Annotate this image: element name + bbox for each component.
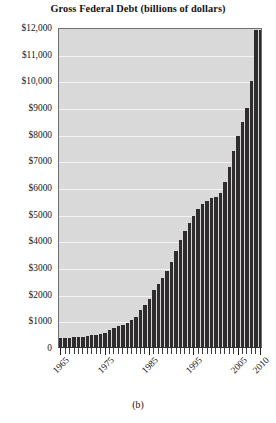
x-axis-tick-label: 1965 [51,355,71,375]
x-axis-tick [96,348,97,354]
x-axis-tick-label: 1995 [184,355,204,375]
x-axis-tick [158,348,159,354]
x-axis-tick-label: 1975 [95,355,115,375]
x-axis-tick [136,348,137,354]
x-axis: 196519751985199520052010 [0,355,276,395]
x-axis-tick [242,348,243,354]
y-axis-tick-label: $9000 [29,103,52,113]
x-axis-tick [238,348,239,355]
x-axis-tick [82,348,83,354]
x-axis-tick [140,348,141,354]
x-axis-tick-label: 2005 [228,355,248,375]
y-axis-tick-label: $3000 [29,263,52,273]
x-axis-tick [69,348,70,354]
y-axis-tick-label: $2000 [29,290,52,300]
x-axis-tick [171,348,172,354]
x-axis-tick [60,348,61,355]
x-axis-tick [78,348,79,354]
chart-title: Gross Federal Debt (billions of dollars) [0,3,276,14]
y-axis-tick-label: $7000 [29,156,52,166]
x-axis-tick [215,348,216,354]
y-axis: $12,000$11,000$10,000$9000$8000$7000$600… [0,28,55,348]
x-axis-tick [162,348,163,354]
x-axis-tick [144,348,145,354]
x-axis-tick [202,348,203,354]
y-axis-tick-label: $10,000 [22,76,52,86]
x-axis-tick [100,348,101,354]
x-axis-tick [207,348,208,354]
x-axis-ticks [58,348,262,355]
x-axis-tick [74,348,75,354]
x-axis-tick [65,348,66,354]
x-axis-tick [176,348,177,354]
y-axis-tick-label: $11,000 [22,50,52,60]
bar [259,30,262,347]
x-axis-tick [127,348,128,354]
y-axis-tick-label: $8000 [29,130,52,140]
x-axis-tick [224,348,225,354]
x-axis-tick [180,348,181,354]
x-axis-tick [167,348,168,354]
y-axis-tick-label: $4000 [29,236,52,246]
x-axis-tick [229,348,230,354]
plot-area [58,28,262,348]
x-axis-tick [131,348,132,354]
x-axis-tick-label: 2010 [251,355,271,375]
bar-series [59,29,261,347]
y-axis-tick-label: $5000 [29,210,52,220]
x-axis-tick [251,348,252,354]
x-axis-tick [118,348,119,354]
y-axis-tick-label: $12,000 [22,23,52,33]
x-axis-tick [87,348,88,354]
x-axis-tick [149,348,150,355]
y-axis-tick-label: $6000 [29,183,52,193]
x-axis-tick [255,348,256,354]
x-axis-tick [109,348,110,354]
x-axis-tick [91,348,92,354]
x-axis-tick [189,348,190,354]
x-axis-tick [233,348,234,354]
y-axis-tick-label: 0 [47,343,52,353]
x-axis-tick [211,348,212,354]
x-axis-tick [122,348,123,354]
x-axis-tick [193,348,194,355]
figure-caption: (b) [0,399,276,410]
x-axis-tick [105,348,106,355]
x-axis-tick [246,348,247,354]
x-axis-tick [153,348,154,354]
y-axis-tick-label: $1000 [29,316,52,326]
x-axis-tick [260,348,261,355]
x-axis-tick [184,348,185,354]
x-axis-tick-label: 1985 [140,355,160,375]
x-axis-tick [113,348,114,354]
x-axis-tick [220,348,221,354]
x-axis-tick [198,348,199,354]
figure-gross-federal-debt: Gross Federal Debt (billions of dollars)… [0,0,276,423]
